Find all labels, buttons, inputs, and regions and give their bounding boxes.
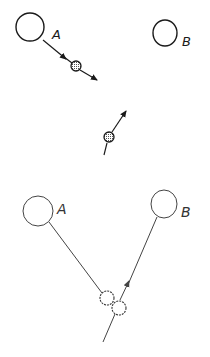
- body-b-top: B: [153, 20, 191, 49]
- body-a-label: A: [56, 201, 67, 217]
- particle-1: [71, 61, 81, 71]
- trajectory-to-b: [127, 217, 157, 287]
- particle-1-velocity-arrow: [80, 70, 97, 80]
- body-b-circle: [153, 20, 177, 46]
- particle-2-velocity-arrow: [112, 111, 126, 132]
- body-b-circle: [151, 190, 177, 218]
- diagram-canvas: A B A B: [0, 0, 210, 357]
- body-a-circle: [16, 13, 44, 41]
- trajectory-a-line: [43, 40, 66, 59]
- bottom-panel: A B: [23, 190, 191, 342]
- trajectory-a-line-2: [64, 57, 72, 63]
- body-b-label: B: [181, 204, 191, 220]
- body-b-label: B: [182, 34, 191, 49]
- trajectory-incoming: [103, 314, 115, 342]
- body-a-label: A: [51, 27, 61, 42]
- trajectory-from-a: [49, 222, 102, 293]
- particle-from-a: [100, 291, 114, 305]
- particle-2: [104, 132, 114, 142]
- particle-toward-b: [112, 301, 126, 315]
- body-a-top: A: [16, 13, 61, 42]
- body-a-bottom: A: [23, 196, 67, 226]
- top-panel: A B: [16, 13, 191, 155]
- body-b-bottom: B: [151, 190, 191, 220]
- body-a-circle: [23, 196, 53, 226]
- particle-2-track: [104, 143, 107, 155]
- trajectory-to-b-arrow: [120, 281, 129, 300]
